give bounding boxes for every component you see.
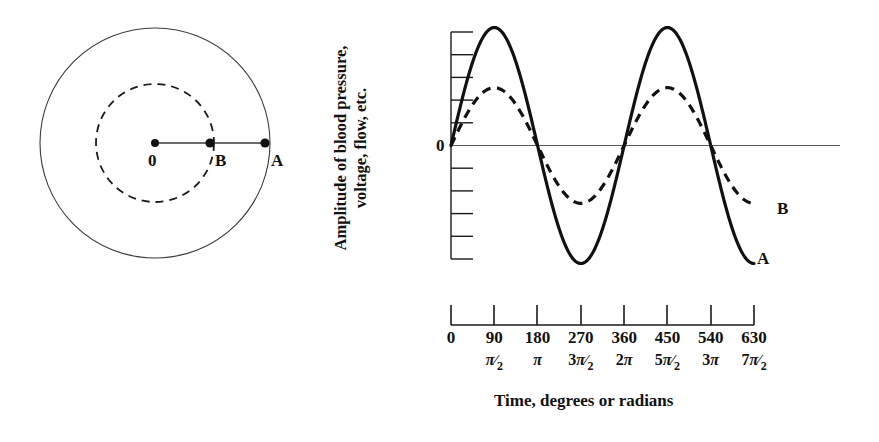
x-tick-degrees-0: 0 <box>429 329 473 346</box>
x-tick-degrees-540: 540 <box>689 329 733 346</box>
figure-root: 0 B A Amplitude of blood pressure, volta… <box>0 0 879 442</box>
x-tick-radians-630: 7π⁄2 <box>730 352 778 368</box>
waveform-plot <box>0 0 879 442</box>
x-tick-radians-90: π⁄2 <box>470 352 518 368</box>
x-axis-title: Time, degrees or radians <box>494 392 673 409</box>
x-tick-degrees-630: 630 <box>732 329 776 346</box>
x-tick-radians-540: 3π <box>687 352 735 368</box>
curve-a-label: A <box>757 250 769 267</box>
x-tick-degrees-180: 180 <box>516 329 560 346</box>
x-tick-radians-270: 3π⁄2 <box>557 352 605 368</box>
x-tick-degrees-360: 360 <box>602 329 646 346</box>
x-axis-scale <box>451 305 754 325</box>
x-tick-radians-360: 2π <box>600 352 648 368</box>
x-tick-degrees-90: 90 <box>472 329 516 346</box>
x-tick-degrees-270: 270 <box>559 329 603 346</box>
x-tick-degrees-450: 450 <box>645 329 689 346</box>
x-tick-radians-450: 5π⁄2 <box>643 352 691 368</box>
curve-b-label: B <box>777 200 788 217</box>
y-axis-zero-label: 0 <box>436 137 445 154</box>
x-tick-radians-180: π <box>514 352 562 368</box>
